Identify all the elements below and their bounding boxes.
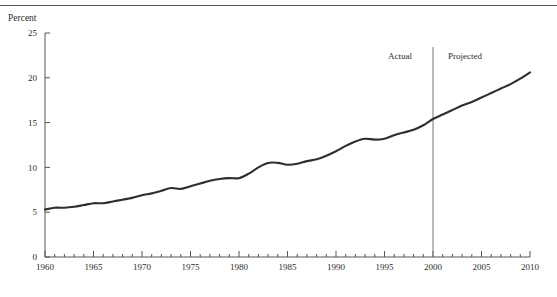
x-tick-label: 1985 <box>279 262 298 272</box>
x-tick-label: 2005 <box>473 262 492 272</box>
x-tick-label: 1965 <box>85 262 104 272</box>
y-tick-label: 20 <box>28 73 38 83</box>
x-tick-label: 1975 <box>182 262 201 272</box>
x-tick-label: 1970 <box>133 262 152 272</box>
y-tick-label: 0 <box>33 252 38 262</box>
y-tick-label: 25 <box>28 28 38 38</box>
x-tick-label: 1960 <box>36 262 55 272</box>
y-tick-label: 15 <box>28 118 38 128</box>
y-tick-label: 10 <box>28 163 38 173</box>
line-chart-plot: 0510152025 19601965197019751980198519901… <box>0 0 557 297</box>
y-axis-ticks: 0510152025 <box>28 28 50 262</box>
x-tick-label: 1980 <box>230 262 249 272</box>
chart-figure: Percent Actual Projected 0510152025 1960… <box>0 0 557 297</box>
data-series-line <box>45 72 530 209</box>
x-tick-label: 1995 <box>376 262 395 272</box>
x-tick-label: 2010 <box>521 262 540 272</box>
y-tick-label: 5 <box>33 207 38 217</box>
x-tick-label: 2000 <box>424 262 443 272</box>
x-tick-label: 1990 <box>327 262 346 272</box>
x-axis-ticks: 1960196519701975198019851990199520002005… <box>36 251 540 272</box>
